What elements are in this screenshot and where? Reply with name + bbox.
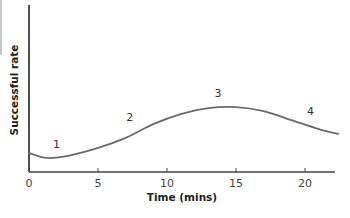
x-tick-label: 10 bbox=[160, 177, 174, 190]
phase-label: 4 bbox=[307, 105, 314, 118]
phase-label: 3 bbox=[215, 87, 222, 100]
y-axis-title: Successful rate bbox=[8, 45, 20, 136]
x-tick-label: 0 bbox=[26, 177, 33, 190]
phase-label: 2 bbox=[126, 111, 133, 124]
x-tick-label: 20 bbox=[298, 177, 312, 190]
data-line bbox=[29, 107, 338, 158]
x-tick-label: 5 bbox=[95, 177, 102, 190]
line-chart: 05101520 1234 Time (mins) Successful rat… bbox=[0, 0, 350, 218]
x-tick-label: 15 bbox=[229, 177, 243, 190]
phase-label: 1 bbox=[53, 138, 60, 151]
annotations: 1234 bbox=[53, 87, 314, 151]
axes bbox=[29, 5, 335, 172]
x-axis-title: Time (mins) bbox=[147, 191, 217, 203]
